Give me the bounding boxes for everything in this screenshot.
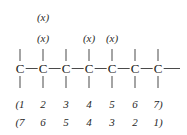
numbering-top-cell-4: 4 [86, 99, 92, 110]
bond-down-c5 [112, 76, 113, 88]
bond-up-c2 [43, 49, 44, 61]
carbon-atom-7: C [153, 62, 164, 75]
chemical-structure-diagram: CCCCCCC(x)(x)(x)(x)(1234567)(7654321) [0, 0, 187, 135]
numbering-bottom-cell-5: 3 [109, 117, 115, 128]
numbering-top-cell-2: 2 [40, 99, 46, 110]
bond-up-c6 [135, 49, 136, 61]
bond-up-c4 [89, 49, 90, 61]
bond-up-c1 [20, 49, 21, 61]
substituent-label-3: (x) [83, 33, 95, 44]
carbon-atom-6: C [130, 62, 141, 75]
bond-up-c7 [158, 49, 159, 61]
bond-up-c3 [66, 49, 67, 61]
bond-down-c1 [20, 76, 21, 88]
numbering-bottom-cell-1: (7 [15, 117, 24, 128]
numbering-bottom-cell-4: 4 [86, 117, 92, 128]
numbering-top-cell-5: 5 [109, 99, 115, 110]
numbering-top-cell-1: (1 [15, 99, 24, 110]
substituent-label-1: (x) [37, 12, 49, 23]
bond-down-c6 [135, 76, 136, 88]
carbon-atom-1: C [15, 62, 26, 75]
numbering-bottom-cell-7: 1) [153, 117, 162, 128]
bond-down-c2 [43, 76, 44, 88]
bond-down-c4 [89, 76, 90, 88]
carbon-atom-5: C [107, 62, 118, 75]
substituent-label-4: (x) [106, 33, 118, 44]
numbering-bottom-cell-6: 2 [132, 117, 138, 128]
numbering-top-cell-3: 3 [63, 99, 69, 110]
carbon-atom-2: C [38, 62, 49, 75]
numbering-bottom-cell-2: 6 [40, 117, 46, 128]
bond-up-c5 [112, 49, 113, 61]
substituent-label-2: (x) [37, 33, 49, 44]
numbering-bottom-cell-3: 5 [63, 117, 69, 128]
numbering-top-cell-7: 7) [153, 99, 162, 110]
carbon-atom-4: C [84, 62, 95, 75]
carbon-atom-3: C [61, 62, 72, 75]
bond-down-c7 [158, 76, 159, 88]
bond-down-c3 [66, 76, 67, 88]
numbering-top-cell-6: 6 [132, 99, 138, 110]
